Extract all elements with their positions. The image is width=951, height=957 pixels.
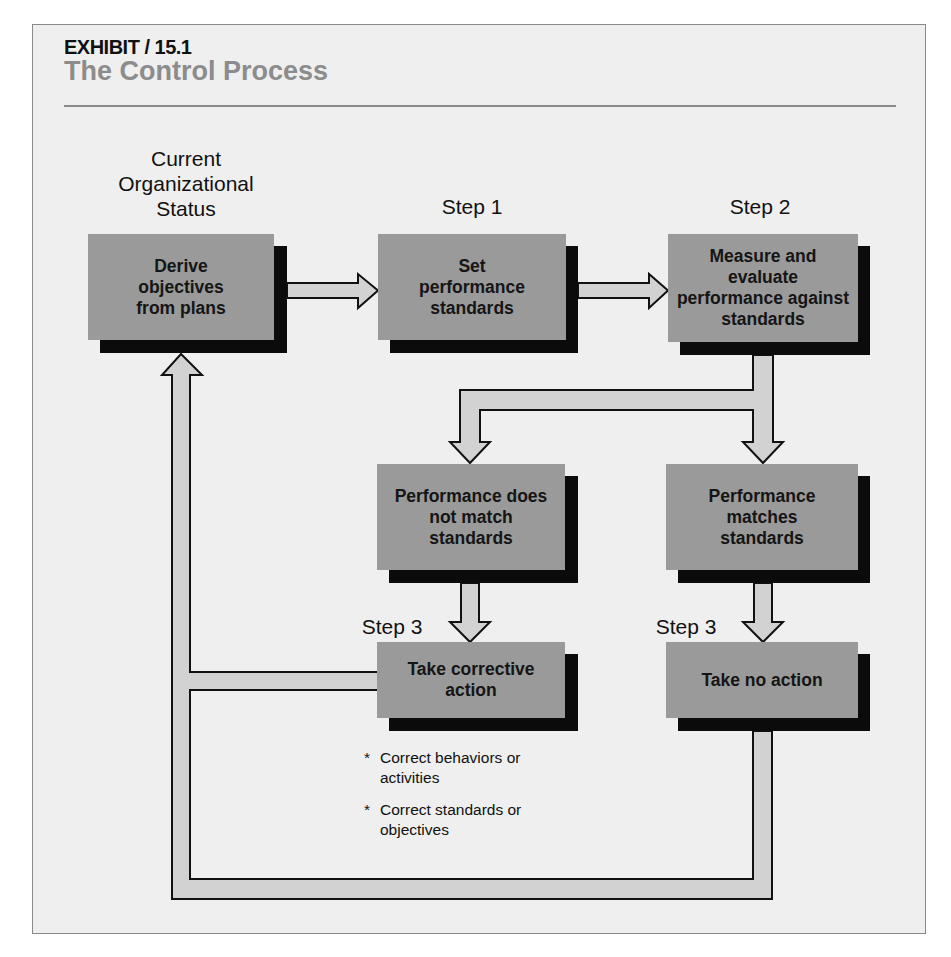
corrective-notes-list: * Correct behaviors or activities * Corr… (358, 748, 530, 852)
corrective-note-text: Correct standards or objectives (380, 800, 530, 840)
box-measure-text: Measure and evaluate performance against… (668, 234, 858, 342)
step2-label: Step 2 (720, 194, 800, 219)
box-corrective-text: Take corrective action (377, 642, 565, 718)
arrow-down-icon (743, 583, 783, 642)
step3-no-action-label: Step 3 (646, 614, 726, 639)
box-no-action-text: Take no action (666, 642, 858, 718)
corrective-note-item: * Correct standards or objectives (358, 800, 530, 840)
asterisk-bullet-icon: * (364, 800, 370, 820)
box-derive-text: Derive objectives from plans (88, 234, 274, 340)
corrective-note-item: * Correct behaviors or activities (358, 748, 530, 788)
asterisk-bullet-icon: * (364, 748, 370, 768)
box-matches-text: Performance matches standards (666, 464, 858, 570)
arrow-right-icon (287, 274, 378, 308)
step1-label: Step 1 (432, 194, 512, 219)
box-not-match-text: Performance does not match standards (377, 464, 565, 570)
corrective-note-text: Correct behaviors or activities (380, 748, 530, 788)
split-arrow-icon (450, 355, 783, 463)
arrow-down-icon (450, 583, 490, 642)
box-set-standards-text: Set performance standards (378, 234, 566, 340)
current-status-label: Current Organizational Status (96, 146, 276, 221)
arrow-right-icon (578, 274, 668, 308)
step3-corrective-label: Step 3 (352, 614, 432, 639)
